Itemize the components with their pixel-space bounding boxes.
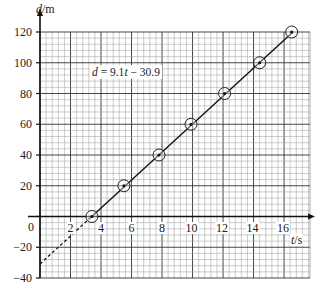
x-tick-label: 14: [246, 222, 260, 234]
x-axis-title: t/s: [290, 234, 303, 246]
y-axis-title: d/m: [36, 3, 55, 15]
x-tick-label: 8: [158, 222, 166, 234]
x-tick-label: 12: [215, 222, 229, 234]
y-tick-label: 20: [2, 180, 32, 192]
y-tick-label: −40: [2, 272, 32, 284]
y-tick-label: 80: [2, 88, 32, 100]
y-tick-label: 0: [0, 221, 34, 233]
chart-canvas: [0, 0, 319, 294]
data-point-dot: [189, 123, 192, 126]
x-tick-label: 4: [97, 222, 105, 234]
fit-equation-label: d = 9.1t − 30.9: [90, 65, 162, 79]
x-tick-label: 2: [67, 222, 75, 234]
data-point-dot: [157, 153, 160, 156]
data-point-dot: [290, 30, 293, 33]
x-tick-label: 16: [276, 222, 290, 234]
data-point-dot: [90, 215, 93, 218]
y-tick-label: 40: [2, 149, 32, 161]
data-point-dot: [223, 92, 226, 95]
y-tick-label: 100: [2, 57, 32, 69]
y-tick-label: 60: [2, 118, 32, 130]
x-tick-label: 10: [185, 222, 199, 234]
x-axis-arrow-icon: [308, 214, 315, 220]
data-point-dot: [258, 61, 261, 64]
data-point-dot: [122, 184, 125, 187]
graph-paper-grid: [40, 32, 310, 278]
y-tick-label: −20: [2, 241, 32, 253]
y-tick-label: 120: [2, 26, 32, 38]
x-tick-label: 6: [128, 222, 136, 234]
